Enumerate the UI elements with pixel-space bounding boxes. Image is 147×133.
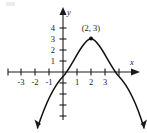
y-tick-label-4: 4 [51,23,56,33]
x-axis-label: x [129,57,134,67]
x-axis-arrow-icon [131,69,140,76]
y-axis-arrow-icon [60,7,67,15]
y-tick-label-1: 1 [51,56,55,66]
coordinate-plane: -3 -2 -1 1 2 3 1 2 3 4 y x (2, 3) [0,0,147,133]
x-tick-label-1: 1 [75,77,79,87]
x-tick-label-minus2: -2 [31,77,38,87]
y-tick-label-2: 2 [51,45,55,55]
x-tick-label-minus3: -3 [17,77,24,87]
x-tick-label-3: 3 [103,77,107,87]
y-axis-label: y [66,7,71,17]
y-tick-label-3: 3 [51,34,55,44]
parabola-graph-figure: -3 -2 -1 1 2 3 1 2 3 4 y x (2, 3) [0,0,147,133]
vertex-point-marker [89,37,93,41]
x-tick-label-minus1: -1 [45,77,52,87]
x-tick-label-2: 2 [89,77,93,87]
vertex-coordinate-label: (2, 3) [82,23,101,33]
